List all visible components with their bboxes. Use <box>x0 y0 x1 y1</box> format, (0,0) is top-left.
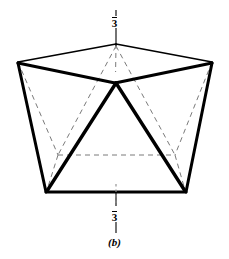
edge-center-to-upperright <box>115 63 212 83</box>
edge-upperright-to-bottomright <box>186 63 212 192</box>
hidden-edge-apex-to-right <box>116 46 175 155</box>
front-ridge-group <box>18 63 212 83</box>
axis-label-top: 3 <box>0 17 229 30</box>
axis-label-bottom: 3 <box>0 211 229 224</box>
edge-apex-to-upperright <box>116 44 212 62</box>
hidden-edge-upperleft-to-hiddenleft <box>18 62 58 155</box>
hidden-edges-group <box>18 44 212 190</box>
upper-face-edges-group <box>18 44 212 62</box>
edge-upperleft-to-center <box>18 63 115 83</box>
hidden-edge-upperright-to-hiddenright <box>175 62 212 155</box>
hidden-edge-apex-to-left <box>58 46 116 155</box>
edge-upperleft-to-bottomleft <box>18 63 46 192</box>
axis-label-top-value: 3 <box>112 17 118 30</box>
axis-label-bottom-value: 3 <box>112 211 118 224</box>
edge-center-to-bottomright <box>116 83 185 191</box>
figure-caption: (b) <box>0 236 229 248</box>
figure-container: 3 3 (b) <box>0 0 229 259</box>
edge-upperleft-to-apex <box>18 44 116 62</box>
edge-center-to-bottomleft <box>47 83 116 191</box>
